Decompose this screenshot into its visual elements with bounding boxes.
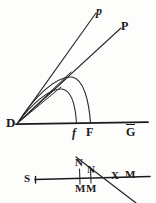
label-f: f <box>72 127 76 139</box>
label-S: S <box>24 173 30 184</box>
label-P-uppercase: P <box>121 20 128 32</box>
label-G: G <box>126 124 135 138</box>
label-M-first: M <box>75 183 85 194</box>
label-D: D <box>6 116 15 129</box>
lower-diagonal-line <box>76 157 136 203</box>
trajectory-outer-curve <box>18 77 91 123</box>
label-M-third: M <box>125 169 135 180</box>
label-M-second: M <box>86 183 96 194</box>
ballistics-figure: D f F G p P S N N M M X M <box>0 0 156 203</box>
label-X: X <box>111 170 119 181</box>
label-p-lowercase: p <box>96 5 102 17</box>
trajectory-inner-curve <box>18 89 77 123</box>
label-N-first: N <box>75 157 83 168</box>
label-F: F <box>86 126 93 138</box>
label-N-second: N <box>87 164 95 175</box>
